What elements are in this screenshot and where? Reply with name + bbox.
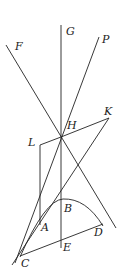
label-b: B <box>64 203 72 214</box>
line-cd <box>20 224 103 256</box>
parabola-curve <box>20 199 103 257</box>
label-h: H <box>67 120 77 131</box>
label-f: F <box>15 41 23 52</box>
label-g: G <box>66 26 75 37</box>
label-l: L <box>28 137 35 148</box>
geometry-diagram: G F P K H L B A D E C <box>0 0 123 275</box>
label-p: P <box>102 34 109 45</box>
label-d: D <box>94 227 103 238</box>
line-ph <box>15 37 99 263</box>
label-e: E <box>63 242 71 253</box>
line-lh <box>40 137 61 145</box>
label-c: C <box>21 258 29 269</box>
label-a: A <box>41 222 49 233</box>
label-k: K <box>104 106 112 117</box>
